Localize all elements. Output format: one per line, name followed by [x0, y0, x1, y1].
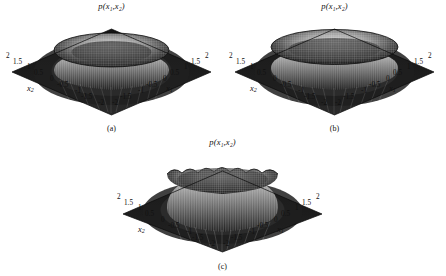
panel-a-surface-svg: [0, 10, 223, 122]
panel-c-surface: [111, 146, 334, 258]
panel-c-surface-svg: [111, 146, 334, 258]
panel-a-caption: (a): [0, 124, 223, 133]
panel-b-surface-svg: [223, 10, 446, 122]
panel-c-caption: (c): [111, 262, 334, 271]
panel-c: p(x₁,x₂): [111, 136, 334, 274]
panel-b: p(x₁,x₂): [223, 0, 446, 138]
figure-three-surface-plots: p(x₁,x₂): [0, 0, 446, 276]
panel-b-caption: (b): [223, 124, 446, 133]
panel-a: p(x₁,x₂): [0, 0, 223, 138]
panel-a-surface: [0, 10, 223, 122]
panel-b-surface: [223, 10, 446, 122]
